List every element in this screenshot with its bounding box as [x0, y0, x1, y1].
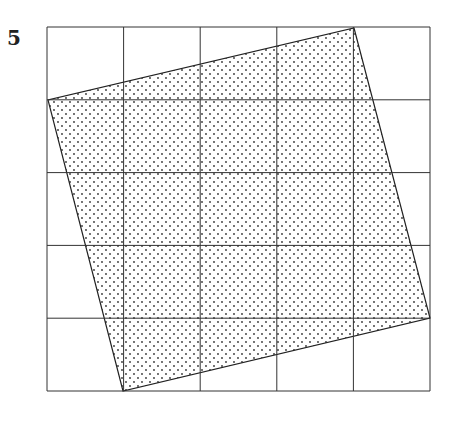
shaded-square [48, 28, 430, 391]
tilted-square-diagram [0, 0, 451, 429]
